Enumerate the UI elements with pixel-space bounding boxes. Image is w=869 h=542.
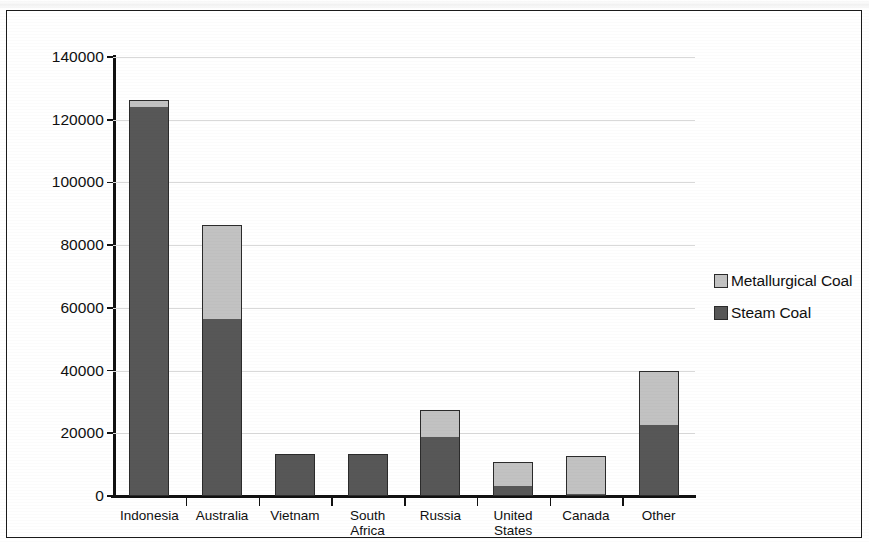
bar-segment-metallurgical-coal[interactable] (493, 462, 533, 486)
x-axis-category-label: South Africa (331, 509, 404, 538)
bar-segment-steam-coal[interactable] (566, 494, 606, 496)
y-axis-tick-label: 40000 (60, 362, 104, 380)
legend-item[interactable]: Metallurgical Coal (714, 269, 852, 293)
bar-group[interactable] (259, 57, 332, 496)
bar-stack[interactable] (566, 456, 606, 496)
y-axis-tick-label: 20000 (60, 424, 104, 442)
bar-group[interactable] (404, 57, 477, 496)
x-axis-category-label: Canada (550, 509, 623, 524)
x-axis-tick (259, 497, 261, 506)
x-axis-category-label: Vietnam (259, 509, 332, 524)
y-axis-tick-label: 140000 (52, 48, 104, 66)
x-axis-tick (550, 497, 552, 506)
bar-stack[interactable] (202, 225, 242, 496)
bar-stack[interactable] (129, 100, 169, 496)
legend-item[interactable]: Steam Coal (714, 301, 852, 325)
y-axis-tick-label: 80000 (60, 236, 104, 254)
x-axis-category-label: Australia (186, 509, 259, 524)
bar-segment-steam-coal[interactable] (639, 425, 679, 496)
bar-segment-steam-coal[interactable] (275, 454, 315, 496)
legend-swatch-icon (714, 306, 728, 320)
bar-group[interactable] (186, 57, 259, 496)
bar-segment-steam-coal[interactable] (348, 454, 388, 496)
bar-segment-steam-coal[interactable] (202, 319, 242, 496)
bar-segment-metallurgical-coal[interactable] (566, 456, 606, 494)
bar-stack[interactable] (420, 410, 460, 496)
plot-area: 020000400006000080000100000120000140000 (113, 57, 695, 496)
x-axis-tick (331, 497, 333, 506)
y-axis-tick-label: 60000 (60, 299, 104, 317)
bar-segment-steam-coal[interactable] (420, 437, 460, 496)
bar-segment-metallurgical-coal[interactable] (129, 100, 169, 107)
bar-segment-steam-coal[interactable] (493, 486, 533, 496)
bar-group[interactable] (622, 57, 695, 496)
x-axis-tick (477, 497, 479, 506)
bar-segment-metallurgical-coal[interactable] (639, 371, 679, 426)
x-axis-tick (404, 497, 406, 506)
y-axis-tick-label: 100000 (52, 173, 104, 191)
legend-item-label: Steam Coal (731, 304, 811, 322)
bar-stack[interactable] (639, 371, 679, 496)
scan-edge-artifact (0, 0, 869, 9)
bar-stack[interactable] (275, 454, 315, 496)
bar-group[interactable] (113, 57, 186, 496)
x-axis-category-label: Indonesia (113, 509, 186, 524)
legend-item-label: Metallurgical Coal (731, 272, 852, 290)
bar-group[interactable] (477, 57, 550, 496)
chart-screenshot: Coal Imports (Thousand Metruc Tons) 0200… (0, 0, 869, 542)
legend: Metallurgical CoalSteam Coal (714, 269, 852, 333)
bar-segment-steam-coal[interactable] (129, 107, 169, 496)
x-axis-category-label: United States (477, 509, 550, 538)
legend-swatch-icon (714, 274, 728, 288)
x-axis-tick (622, 497, 624, 506)
figure-frame: Coal Imports (Thousand Metruc Tons) 0200… (6, 10, 862, 538)
x-axis-category-label: Russia (404, 509, 477, 524)
y-axis-tick-label: 120000 (52, 111, 104, 129)
bar-segment-metallurgical-coal[interactable] (202, 225, 242, 318)
x-axis-tick (186, 497, 188, 506)
bars-group (113, 57, 695, 496)
bar-segment-metallurgical-coal[interactable] (420, 410, 460, 437)
bar-stack[interactable] (348, 454, 388, 496)
x-axis-category-label: Other (622, 509, 695, 524)
bar-group[interactable] (331, 57, 404, 496)
y-axis-tick-label: 0 (95, 487, 104, 505)
bar-stack[interactable] (493, 462, 533, 496)
bar-group[interactable] (550, 57, 623, 496)
